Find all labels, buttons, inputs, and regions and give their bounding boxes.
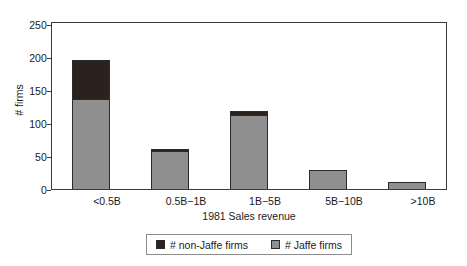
bar-group[interactable] xyxy=(151,149,189,190)
y-axis: 250 200 150 100 50 0 xyxy=(0,0,51,266)
x-tick-label-4: >10B xyxy=(367,194,467,208)
bar-segment-jaffe[interactable] xyxy=(309,170,347,189)
bar-group[interactable] xyxy=(72,60,110,189)
y-tick-100: 100 xyxy=(29,118,51,130)
y-tick-150: 150 xyxy=(29,85,51,97)
y-tick-200: 200 xyxy=(29,52,51,64)
bar-segment-jaffe[interactable] xyxy=(151,151,189,189)
bar-group[interactable] xyxy=(388,182,426,189)
y-tick-250: 250 xyxy=(29,19,51,31)
plot-area xyxy=(51,22,447,190)
chart-figure: 250 200 150 100 50 0 # firms <0.5B 0. xyxy=(0,0,467,266)
legend-entry-non-jaffe: # non-Jaffe firms xyxy=(156,239,248,251)
x-axis-title: 1981 Sales revenue xyxy=(51,210,447,222)
bar-group[interactable] xyxy=(309,170,347,189)
legend-entry-jaffe: # Jaffe firms xyxy=(271,239,342,251)
legend-swatch-icon xyxy=(156,240,165,249)
bar-segment-non-jaffe[interactable] xyxy=(72,60,110,100)
y-tick-50: 50 xyxy=(35,151,51,163)
bar-segment-non-jaffe[interactable] xyxy=(230,111,268,115)
bar-segment-non-jaffe[interactable] xyxy=(151,149,189,152)
legend-swatch-icon xyxy=(271,240,280,249)
chart-legend: # non-Jaffe firms # Jaffe firms xyxy=(146,234,352,255)
y-axis-title: # firms xyxy=(13,65,25,135)
legend-label: # Jaffe firms xyxy=(285,239,342,251)
x-axis: <0.5B 0.5B−1B 1B−5B 5B−10B >10B xyxy=(51,194,447,210)
bars-layer xyxy=(52,23,446,189)
y-tick-0: 0 xyxy=(41,184,51,196)
bar-segment-jaffe[interactable] xyxy=(230,115,268,189)
bar-group[interactable] xyxy=(230,111,268,189)
bar-segment-jaffe[interactable] xyxy=(388,182,426,189)
bar-segment-jaffe[interactable] xyxy=(72,99,110,189)
legend-label: # non-Jaffe firms xyxy=(170,239,248,251)
